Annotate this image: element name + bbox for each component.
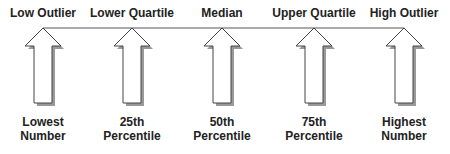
bottom-label-line2: Number bbox=[349, 129, 450, 143]
bottom-label: HighestNumber bbox=[349, 115, 450, 143]
up-arrow-icon bbox=[386, 28, 422, 103]
top-label: High Outlier bbox=[349, 6, 450, 20]
up-arrow-icon bbox=[204, 28, 240, 103]
up-arrow-icon bbox=[296, 28, 332, 103]
up-arrow-icon bbox=[114, 28, 150, 103]
bottom-label-line1: Highest bbox=[349, 115, 450, 129]
up-arrow-icon bbox=[25, 28, 61, 103]
